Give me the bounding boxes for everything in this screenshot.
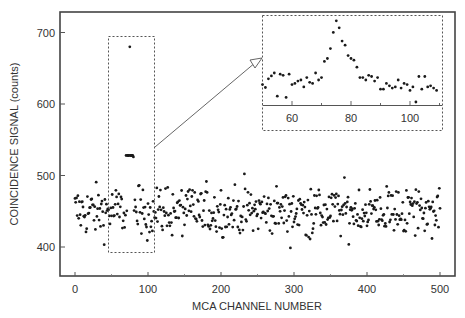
x-tick-label: 100 <box>139 283 157 295</box>
inset-x-tick-label: 60 <box>286 112 298 124</box>
x-tick-label: 200 <box>212 283 230 295</box>
x-tick-label: 500 <box>431 283 449 295</box>
inset-x-tick-label: 80 <box>345 112 357 124</box>
y-tick-label: 500 <box>37 170 55 182</box>
inset-x-tick-label: 100 <box>401 112 419 124</box>
x-tick-label: 400 <box>358 283 376 295</box>
x-tick-label: 300 <box>285 283 303 295</box>
y-tick-label: 400 <box>37 241 55 253</box>
x-tick-label: 0 <box>72 283 78 295</box>
y-axis-title: COINCIDENCE SIGNAL (counts) <box>8 63 20 226</box>
y-tick-label: 600 <box>37 98 55 110</box>
scatter-chart: 0100200300400500 400500600700 MCA CHANNE… <box>0 0 465 318</box>
y-tick-label: 700 <box>37 27 55 39</box>
x-axis-title: MCA CHANNEL NUMBER <box>192 300 322 312</box>
